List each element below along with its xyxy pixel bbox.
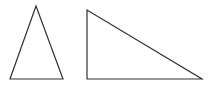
right-triangle (87, 10, 202, 79)
diagram-canvas (0, 0, 212, 88)
isosceles-triangle (10, 6, 63, 79)
